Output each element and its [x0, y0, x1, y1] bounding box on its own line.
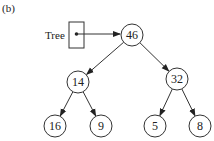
tree-node-14: 14: [67, 71, 89, 93]
edge-14-to-16: [60, 92, 73, 116]
node-value: 8: [197, 119, 203, 133]
tree-node-32: 32: [166, 68, 188, 90]
node-value: 5: [152, 119, 158, 133]
tree-node-16: 16: [44, 115, 66, 137]
node-value: 32: [171, 72, 183, 86]
node-value: 9: [98, 119, 104, 133]
node-value: 16: [49, 119, 61, 133]
tree-node-5: 5: [144, 115, 166, 137]
figure-label: (b): [2, 2, 15, 15]
node-value: 46: [126, 28, 138, 42]
tree-diagram: (b) Tree 46143216958: [0, 0, 214, 141]
edge-46-to-14: [87, 42, 124, 74]
tree-node-9: 9: [90, 115, 112, 137]
edge-32-to-5: [160, 89, 172, 116]
tree-node-8: 8: [189, 115, 211, 137]
pointer-label: Tree: [45, 29, 65, 41]
node-value: 14: [72, 75, 84, 89]
edge-14-to-9: [83, 92, 96, 116]
edge-46-to-32: [140, 43, 169, 71]
edge-32-to-8: [182, 89, 195, 116]
tree-node-46: 46: [121, 24, 143, 46]
